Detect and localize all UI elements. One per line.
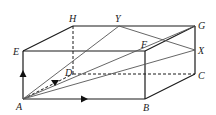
label-B: B — [143, 102, 149, 113]
arrow-down-left-icon — [51, 80, 59, 86]
label-G: G — [198, 20, 205, 31]
label-X: X — [197, 45, 205, 56]
edge-BC — [145, 74, 195, 99]
arrow-up-icon — [20, 70, 27, 77]
label-H: H — [68, 13, 77, 24]
label-F: F — [140, 39, 148, 50]
label-C: C — [198, 70, 205, 81]
label-Y: Y — [115, 13, 122, 24]
edge-EH — [23, 26, 73, 51]
label-E: E — [12, 46, 19, 57]
segment-AY — [23, 26, 119, 99]
segment-AG — [23, 26, 195, 99]
cuboid-diagram: A B C D E F G H X Y — [0, 0, 216, 115]
segments — [23, 26, 195, 99]
arrow-right-icon — [81, 96, 88, 103]
segment-YX — [119, 26, 195, 50]
label-A: A — [15, 101, 23, 112]
label-D: D — [64, 67, 73, 78]
